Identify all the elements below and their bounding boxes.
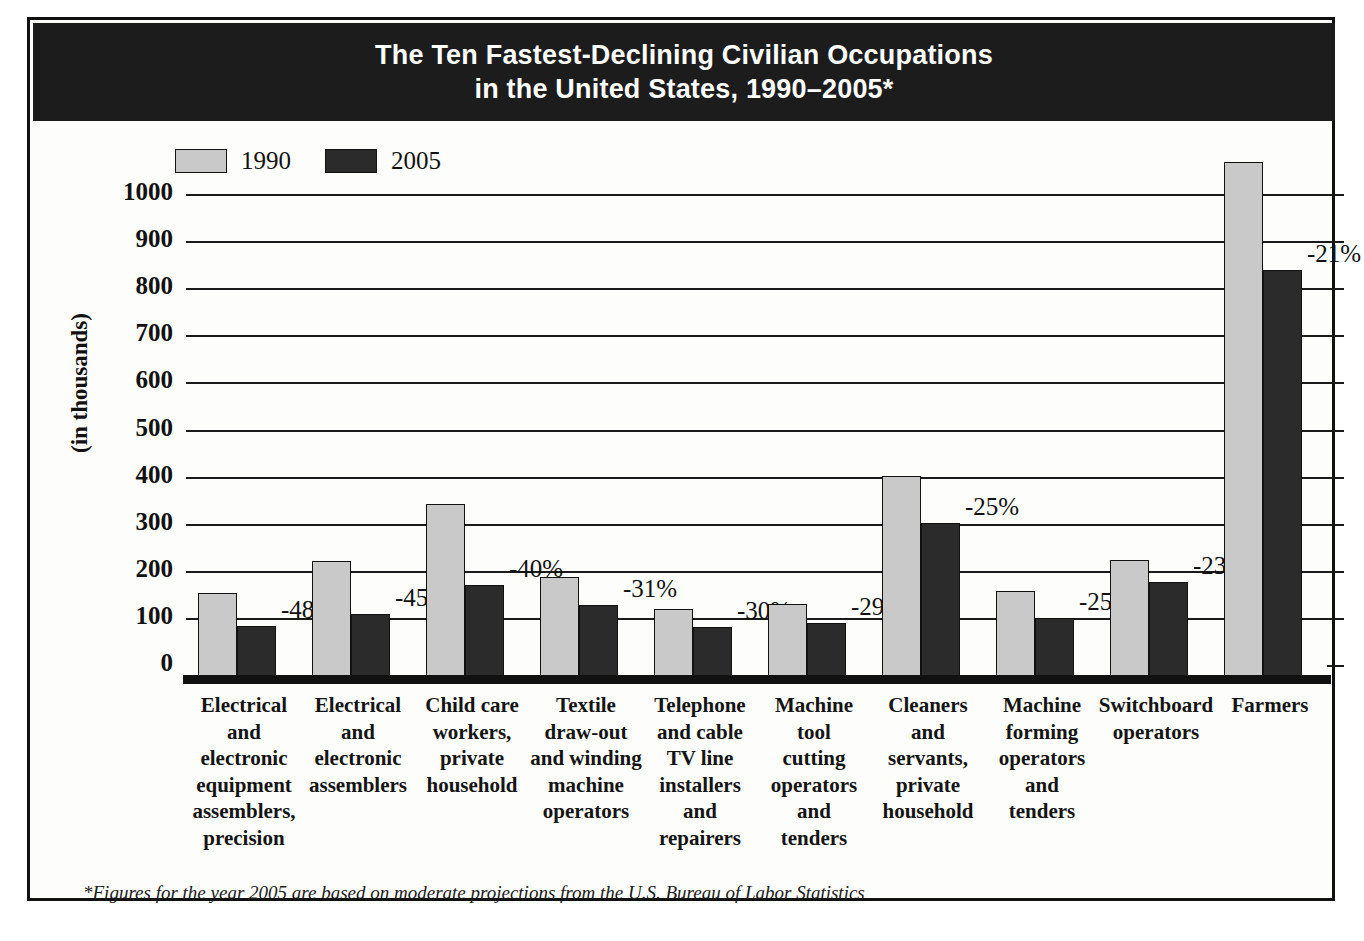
y-axis-tick-label: 1000	[78, 178, 173, 206]
bar-groups: -48%-45%-40%-31%-30%-29%-25%-25%-23%-21%	[187, 120, 1327, 682]
bar-1990[interactable]	[426, 504, 465, 683]
x-axis-category-line: precision	[179, 825, 309, 852]
y-axis-tick-label: 400	[78, 461, 173, 489]
bar-group: -23%	[1099, 120, 1213, 682]
x-axis-category-label: Textiledraw-outand windingmachineoperato…	[521, 692, 651, 825]
bar-1990[interactable]	[768, 604, 807, 682]
y-axis-tick-label: 0	[78, 649, 173, 677]
x-axis-category-line: equipment	[179, 772, 309, 799]
y-axis-tick-label: 900	[78, 225, 173, 253]
x-axis-category-line: Electrical	[293, 692, 423, 719]
y-axis-right-tick	[1327, 382, 1344, 384]
x-axis-category-line: Machine	[749, 692, 879, 719]
bar-1990[interactable]	[1110, 560, 1149, 682]
x-axis-category-line: electronic	[179, 745, 309, 772]
x-axis-category-label: Switchboardoperators	[1091, 692, 1221, 745]
x-axis-category-line: and	[179, 719, 309, 746]
bar-1990[interactable]	[198, 593, 237, 682]
x-axis-category-line: Electrical	[179, 692, 309, 719]
bar-1990[interactable]	[540, 577, 579, 682]
bar-2005[interactable]	[351, 614, 390, 682]
x-axis-category-label: Cleanersandservants,privatehousehold	[863, 692, 993, 825]
x-axis-category-label: Farmers	[1205, 692, 1335, 719]
percent-change-label: -21%	[1307, 240, 1361, 268]
bar-group: -21%	[1213, 120, 1327, 682]
x-axis-category-line: Telephone	[635, 692, 765, 719]
x-axis-category-line: and	[749, 798, 879, 825]
x-axis-category-line: household	[863, 798, 993, 825]
bar-2005[interactable]	[1035, 618, 1074, 682]
x-axis-category-line: cutting	[749, 745, 879, 772]
plot-area: (in thousands) 0100200300400500600700800…	[30, 20, 1338, 904]
bar-1990[interactable]	[1224, 162, 1263, 682]
x-axis-category-line: and	[863, 719, 993, 746]
y-axis-tick-label: 300	[78, 508, 173, 536]
chart-figure: The Ten Fastest-Declining Civilian Occup…	[27, 17, 1335, 901]
y-axis-right-tick	[1327, 194, 1344, 196]
y-axis-right-tick	[1327, 618, 1344, 620]
y-axis-right-tick	[1327, 571, 1344, 573]
x-axis-category-line: Cleaners	[863, 692, 993, 719]
x-axis-baseline	[183, 675, 1331, 684]
x-axis-category-label: Telephoneand cableTV lineinstallersandre…	[635, 692, 765, 851]
bar-2005[interactable]	[1263, 270, 1302, 682]
x-axis-category-line: Switchboard	[1091, 692, 1221, 719]
bar-2005[interactable]	[693, 627, 732, 682]
x-axis-category-line: private	[407, 745, 537, 772]
bar-group: -25%	[985, 120, 1099, 682]
x-axis-category-line: tool	[749, 719, 879, 746]
x-axis-category-line: Textile	[521, 692, 651, 719]
y-axis-tick-label: 800	[78, 272, 173, 300]
x-axis-category-line: tenders	[749, 825, 879, 852]
x-axis-category-line: workers,	[407, 719, 537, 746]
x-axis-category-line: repairers	[635, 825, 765, 852]
x-axis-category-label: Electricalandelectronicequipmentassemble…	[179, 692, 309, 851]
x-axis-category-label: Child careworkers,privatehousehold	[407, 692, 537, 798]
x-axis-category-line: servants,	[863, 745, 993, 772]
y-axis-right-tick	[1327, 430, 1344, 432]
x-axis-category-line: operators	[521, 798, 651, 825]
bar-2005[interactable]	[237, 626, 276, 682]
bar-2005[interactable]	[579, 605, 618, 682]
chart-footnote: *Figures for the year 2005 are based on …	[83, 882, 865, 904]
y-axis-right-tick	[1327, 335, 1344, 337]
y-axis-tick-label: 600	[78, 366, 173, 394]
bar-2005[interactable]	[1149, 582, 1188, 682]
x-axis-category-line: electronic	[293, 745, 423, 772]
x-axis-category-line: private	[863, 772, 993, 799]
bar-1990[interactable]	[654, 609, 693, 682]
bar-1990[interactable]	[882, 476, 921, 682]
x-axis-category-line: operators	[749, 772, 879, 799]
x-axis-category-label: Machinetoolcuttingoperatorsandtenders	[749, 692, 879, 851]
y-axis-tick-label: 700	[78, 319, 173, 347]
x-axis-category-line: household	[407, 772, 537, 799]
bar-group: -25%	[871, 120, 985, 682]
x-axis-category-line: Machine	[977, 692, 1107, 719]
bar-2005[interactable]	[465, 585, 504, 682]
x-axis-category-line: and cable	[635, 719, 765, 746]
x-axis-category-label: Electricalandelectronicassemblers	[293, 692, 423, 798]
x-axis-category-line: installers	[635, 772, 765, 799]
bar-1990[interactable]	[312, 561, 351, 682]
x-axis-category-line: and	[293, 719, 423, 746]
x-axis-category-line: and winding	[521, 745, 651, 772]
bar-1990[interactable]	[996, 591, 1035, 682]
y-axis-right-tick	[1327, 477, 1344, 479]
x-axis-category-line: machine	[521, 772, 651, 799]
x-axis-category-label: Machineformingoperatorsandtenders	[977, 692, 1107, 825]
x-axis-category-line: and	[635, 798, 765, 825]
bar-group: -48%	[187, 120, 301, 682]
y-axis-tick-label: 200	[78, 555, 173, 583]
bar-group: -40%	[415, 120, 529, 682]
bar-2005[interactable]	[807, 623, 846, 682]
x-axis-category-line: assemblers	[293, 772, 423, 799]
bar-2005[interactable]	[921, 523, 960, 682]
x-axis-category-line: Child care	[407, 692, 537, 719]
x-axis-category-line: forming	[977, 719, 1107, 746]
x-axis-category-line: draw-out	[521, 719, 651, 746]
y-axis-right-tick	[1327, 524, 1344, 526]
y-axis-tick-label: 100	[78, 602, 173, 630]
bar-group: -30%	[643, 120, 757, 682]
bar-group: -31%	[529, 120, 643, 682]
x-axis-category-line: TV line	[635, 745, 765, 772]
